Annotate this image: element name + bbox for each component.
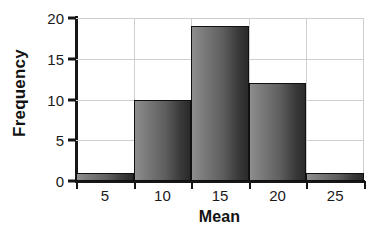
y-axis-tick-label: 0 xyxy=(36,174,64,189)
gridline xyxy=(76,18,364,19)
x-axis-tick-mark xyxy=(306,181,308,189)
x-axis-title: Mean xyxy=(72,208,367,226)
y-axis-tick-mark xyxy=(68,139,76,142)
y-axis-tick-mark xyxy=(68,98,76,101)
x-axis-tick-mark xyxy=(76,181,78,189)
x-axis-tick-mark xyxy=(191,181,193,189)
y-axis-tick-mark xyxy=(68,180,76,183)
y-axis-tick-label: 20 xyxy=(36,11,64,26)
x-axis-tick-label: 25 xyxy=(315,188,355,203)
y-axis-tick-mark xyxy=(68,17,76,20)
histogram-chart: Frequency 05101520 510152025 Mean xyxy=(0,0,375,236)
y-axis-title: Frequency xyxy=(0,0,40,185)
gridline-vertical xyxy=(306,18,307,181)
x-axis-tick-label: 15 xyxy=(200,188,240,203)
y-axis-title-text: Frequency xyxy=(10,49,30,137)
x-axis-tick-mark xyxy=(364,181,366,189)
y-axis-tick-mark xyxy=(68,57,76,60)
histogram-bar xyxy=(191,26,249,181)
y-axis-tick-label: 15 xyxy=(36,51,64,66)
histogram-bar xyxy=(134,100,192,182)
x-axis-tick-mark xyxy=(134,181,136,189)
y-axis-tick-label: 5 xyxy=(36,133,64,148)
histogram-bar xyxy=(306,173,364,181)
y-axis-tick-label: 10 xyxy=(36,92,64,107)
histogram-bar xyxy=(249,83,307,181)
x-axis-tick-label: 5 xyxy=(85,188,125,203)
x-axis-tick-label: 10 xyxy=(142,188,182,203)
x-axis-tick-label: 20 xyxy=(258,188,298,203)
plot-area xyxy=(76,18,364,181)
histogram-bar xyxy=(76,173,134,181)
x-axis-tick-mark xyxy=(249,181,251,189)
